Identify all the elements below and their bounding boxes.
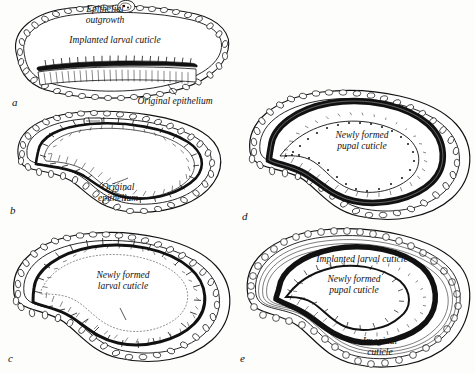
panel-c: c Newly formed larval cuticle [0, 222, 240, 373]
panel-a-drawing [0, 0, 240, 110]
panel-d: d Newly formed pupal cuticle [236, 82, 475, 227]
panel-e-drawing [236, 222, 475, 373]
panel-d-letter: d [242, 210, 248, 222]
panel-b-letter: b [10, 204, 16, 216]
panel-d-drawing [236, 82, 475, 227]
panel-b: b Original epithelium [0, 106, 240, 221]
panel-c-drawing [0, 222, 240, 373]
epithelial-outgrowth-detail [118, 0, 135, 12]
figure-plate: a Epithelial outgrowth Implanted larval … [0, 0, 475, 373]
panel-b-drawing [0, 106, 240, 221]
panel-a: a Epithelial outgrowth Implanted larval … [0, 0, 240, 110]
panel-c-letter: c [8, 352, 13, 364]
panel-e: e Implanted larval cuticle Newly formed … [236, 222, 475, 373]
panel-e-letter: e [240, 352, 245, 364]
